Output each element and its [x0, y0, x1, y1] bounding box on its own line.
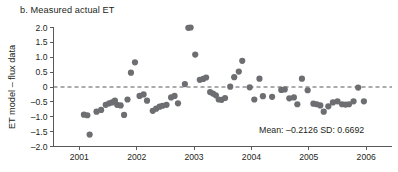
data-point: [87, 132, 93, 138]
y-tick-label: 1.0: [36, 52, 48, 62]
data-point: [121, 112, 127, 118]
data-point: [203, 74, 209, 80]
data-point: [132, 59, 138, 65]
data-point: [350, 98, 356, 104]
y-tick-label: –1.5: [31, 127, 48, 137]
y-tick-label: 0.5: [36, 67, 48, 77]
y-tick-label: –0.5: [31, 97, 48, 107]
data-point: [239, 58, 245, 64]
data-point: [144, 98, 150, 104]
data-point: [188, 24, 194, 30]
data-point: [247, 84, 253, 90]
data-points: [81, 24, 367, 137]
x-tick-label: 2001: [70, 152, 89, 162]
y-tick-label: –2.0: [31, 142, 48, 152]
data-point: [256, 76, 262, 82]
data-point: [251, 96, 257, 102]
data-point: [299, 76, 305, 82]
data-point: [269, 94, 275, 100]
figure-panel: b. Measured actual ET 2.01.51.00.50–0.5–…: [0, 0, 398, 172]
data-point: [128, 70, 134, 76]
data-point: [231, 74, 237, 80]
data-point: [140, 91, 146, 97]
x-tick-label: 2002: [127, 152, 146, 162]
data-point: [222, 95, 228, 101]
data-point: [98, 107, 104, 113]
y-tick-label: 0: [43, 82, 48, 92]
x-tick-label: 2005: [299, 152, 318, 162]
x-tick-label: 2006: [357, 152, 376, 162]
y-tick-label: –1.0: [31, 112, 48, 122]
data-point: [361, 98, 367, 104]
data-point: [305, 87, 311, 93]
x-tick-label: 2003: [185, 152, 204, 162]
data-point: [282, 86, 288, 92]
data-point: [260, 93, 266, 99]
data-point: [182, 81, 188, 87]
y-tick-label: 1.5: [36, 37, 48, 47]
data-point: [227, 84, 233, 90]
data-point: [317, 102, 323, 108]
data-point: [84, 112, 90, 118]
x-tick-label: 2004: [242, 152, 261, 162]
data-point: [171, 93, 177, 99]
data-point: [291, 94, 297, 100]
y-axis-title: ET model – flux data: [7, 44, 17, 129]
stats-annotation: Mean: –0.2126 SD: 0.6692: [259, 125, 364, 135]
data-point: [236, 68, 242, 74]
data-point: [118, 102, 124, 108]
data-point: [175, 100, 181, 106]
data-point: [192, 51, 198, 57]
data-point: [163, 102, 169, 108]
y-tick-label: 2.0: [36, 23, 48, 33]
statistics-annotation: Mean: –0.2126 SD: 0.6692: [259, 125, 364, 135]
data-point: [124, 96, 130, 102]
scatter-plot: 2.01.51.00.50–0.5–1.0–1.5–2.020012002200…: [0, 0, 398, 172]
data-point: [321, 109, 327, 115]
data-point: [355, 84, 361, 90]
data-point: [294, 101, 300, 107]
axis-labels: 2.01.51.00.50–0.5–1.0–1.5–2.020012002200…: [7, 23, 376, 162]
